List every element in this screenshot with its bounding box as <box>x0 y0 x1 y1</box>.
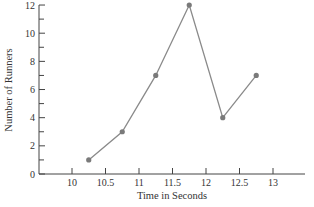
series-runners <box>86 2 259 162</box>
y-tick-label: 0 <box>30 169 35 180</box>
y-axis-title: Number of Runners <box>3 48 14 131</box>
data-point <box>153 73 158 78</box>
data-line <box>89 5 257 160</box>
y-tick-label: 8 <box>30 56 35 67</box>
x-tick-label: 10 <box>67 177 77 188</box>
x-tick-label: 10.5 <box>97 177 115 188</box>
x-tick-label: 13 <box>268 177 278 188</box>
x-tick-label: 11 <box>134 177 144 188</box>
data-point <box>86 157 91 162</box>
x-tick-label: 12 <box>201 177 211 188</box>
x-tick-label: 11.5 <box>164 177 181 188</box>
data-markers <box>86 2 259 162</box>
y-tick-label: 12 <box>25 0 35 11</box>
y-tick-label: 10 <box>25 28 35 39</box>
x-axis-title: Time in Seconds <box>137 190 207 201</box>
y-tick-label: 2 <box>30 140 35 151</box>
y-tick-label: 4 <box>30 112 35 123</box>
data-point <box>120 129 125 134</box>
data-point <box>220 115 225 120</box>
x-tick-label: 12.5 <box>231 177 249 188</box>
data-point <box>254 73 259 78</box>
y-ticks: 024681012 <box>25 0 45 180</box>
y-tick-label: 6 <box>30 84 35 95</box>
line-chart: 024681012 1010.51111.51212.513 Time in S… <box>0 0 314 207</box>
x-ticks: 1010.51111.51212.513 <box>67 168 278 188</box>
axes <box>39 5 305 174</box>
data-point <box>187 2 192 7</box>
